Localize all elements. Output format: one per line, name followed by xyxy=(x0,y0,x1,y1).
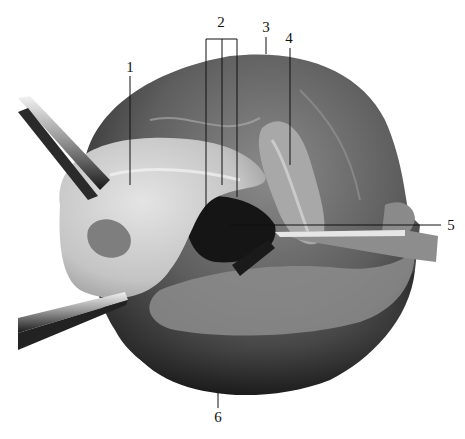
label-2: 2 xyxy=(217,15,225,30)
label-1: 1 xyxy=(126,60,134,75)
specimen-photo xyxy=(0,0,465,439)
anatomical-figure: 1 2 3 4 5 6 xyxy=(0,0,465,439)
label-3: 3 xyxy=(262,20,270,35)
label-6: 6 xyxy=(214,410,222,425)
label-4: 4 xyxy=(285,31,293,46)
label-5: 5 xyxy=(447,218,455,233)
